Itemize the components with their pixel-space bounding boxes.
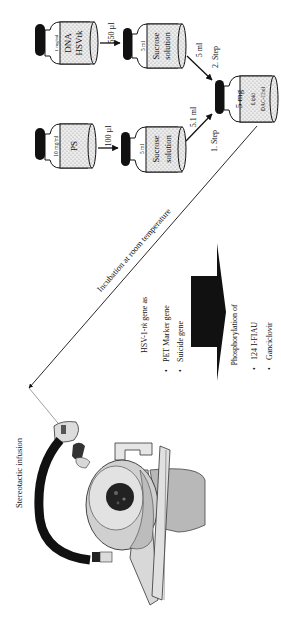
top-transfer-volume: 5 ml: [195, 42, 204, 57]
incubation-label: Incubation at room temperature: [95, 206, 173, 294]
vial-lipid-dac-chol: 5 mg Lipid DAC-Chol: [215, 76, 278, 122]
bottom-transfer-volume: 5.1 ml: [189, 106, 198, 127]
vial-dna-hsvtk: 1 mg/ml DNA HSVtk: [35, 22, 98, 64]
big-process-arrow-icon: [191, 243, 226, 381]
sucrose-bottom-volume: 5 ml: [139, 144, 145, 154]
vial-ps: 10 mg/ml PS: [35, 124, 96, 168]
stereotactic-infusion-label: Stereotactic infusion: [14, 437, 24, 508]
svg-text:HSV-1-tk gene as: HSV-1-tk gene as: [140, 297, 149, 353]
arrow-top-sucrose-to-lipid: [187, 56, 212, 80]
step-2-label: 2. Step: [211, 46, 220, 68]
bullet-dot: •: [265, 367, 274, 370]
ps-label: PS: [69, 141, 79, 151]
ps-concentration-label: 10 mg/ml: [53, 135, 59, 157]
vial-sucrose-top: 5 ml Sucrose solution: [123, 24, 186, 68]
step-1-label: 1. Step: [210, 130, 219, 152]
pet-marker-gene-item: PET Marker gene: [162, 305, 171, 362]
vial-sucrose-bottom: 5 ml Sucrose solution: [121, 127, 186, 172]
bullet-dot: •: [162, 369, 171, 372]
sucrose-top-line2: solution: [162, 32, 172, 60]
phosphorylation-heading: Phosphorylation of: [230, 304, 239, 365]
dna-label: DNA: [63, 33, 73, 53]
sucrose-bottom-line2: solution: [163, 135, 173, 163]
gene-info-heading: HSV-1-tk gene as: [140, 297, 149, 353]
dna-volume-label: 550 µl: [107, 22, 116, 44]
bullet-dot: •: [176, 369, 185, 372]
vial-cap-icon: [123, 28, 132, 60]
vial-cap-icon: [35, 128, 45, 160]
hsvtk-label: HSVtk: [74, 30, 84, 56]
dna-concentration-label: 1 mg/ml: [54, 34, 59, 51]
lipid-label: Lipid: [250, 93, 256, 105]
lipid-amount: 5 mg: [234, 89, 244, 108]
suicide-gene-item: Suicide gene: [176, 320, 185, 362]
sucrose-top-line1: Sucrose: [151, 32, 161, 59]
fiau-item: 124 I-FIAU: [250, 322, 259, 360]
sucrose-top-volume: 5 ml: [140, 41, 146, 51]
ganciclovir-item: Ganciclovir: [265, 322, 274, 360]
sucrose-bottom-line1: Sucrose: [151, 135, 161, 162]
vial-cap-icon: [35, 24, 45, 56]
vial-cap-icon: [121, 132, 130, 166]
vial-cap-icon: [215, 80, 224, 114]
stereotactic-head-device-icon: [29, 388, 205, 605]
dac-chol-label: DAC-Chol: [260, 86, 266, 111]
bullet-dot: •: [250, 367, 259, 370]
liposome-preparation-diagram: 1 mg/ml DNA HSVtk 550 µl 5 ml Sucrose so…: [0, 0, 281, 622]
ps-volume-label: 100 µl: [104, 125, 113, 147]
